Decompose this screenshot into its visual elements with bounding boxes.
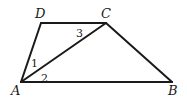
angle-label-2: 2 <box>41 72 48 85</box>
angle-label-3: 3 <box>76 27 83 40</box>
vertex-labels: A B C D <box>10 6 178 97</box>
segment-da <box>21 23 41 82</box>
trapezoid-diagram: A B C D 1 2 3 <box>0 0 187 97</box>
vertex-label-d: D <box>34 6 46 21</box>
vertex-label-b: B <box>167 83 178 97</box>
vertex-label-c: C <box>101 6 111 21</box>
vertex-label-a: A <box>10 83 20 97</box>
diagonal-ac <box>21 23 106 82</box>
angle-label-1: 1 <box>31 57 38 70</box>
segment-bc <box>106 23 172 82</box>
